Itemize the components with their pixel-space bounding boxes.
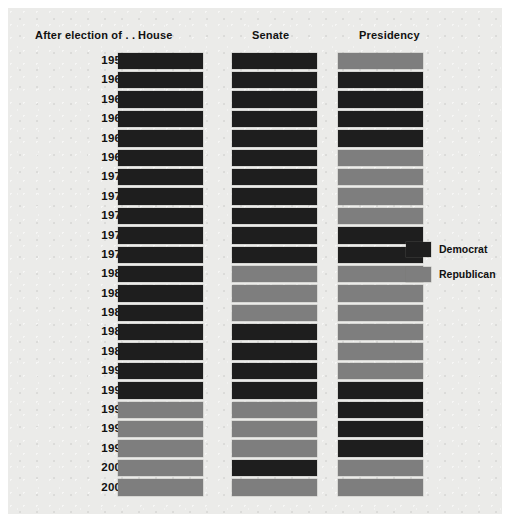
cell-senate-1964 xyxy=(232,111,317,127)
cell-senate-1958 xyxy=(232,53,317,69)
cell-house-1998 xyxy=(118,440,203,456)
cell-pres-1960 xyxy=(338,72,423,88)
cell-senate-1966 xyxy=(232,130,317,146)
cell-house-1974 xyxy=(118,208,203,224)
year-label: 1998 xyxy=(8,442,128,454)
chart-row: 1972 xyxy=(8,188,502,207)
cell-house-1958 xyxy=(118,53,203,69)
year-label: 1986 xyxy=(8,325,128,337)
chart-row: 1992 xyxy=(8,382,502,401)
cell-senate-1988 xyxy=(232,343,317,359)
cell-house-1990 xyxy=(118,363,203,379)
cell-house-1962 xyxy=(118,91,203,107)
cell-house-1964 xyxy=(118,111,203,127)
cell-senate-1978 xyxy=(232,247,317,263)
cell-senate-1992 xyxy=(232,382,317,398)
cell-house-1968 xyxy=(118,150,203,166)
cell-house-1972 xyxy=(118,188,203,204)
legend-item-rep: Republican xyxy=(406,267,501,292)
year-label: 1962 xyxy=(8,93,128,105)
chart-row: 1996 xyxy=(8,420,502,439)
year-label: 1964 xyxy=(8,112,128,124)
year-label: 1972 xyxy=(8,190,128,202)
chart-row: 1974 xyxy=(8,207,502,226)
year-label: 1994 xyxy=(8,403,128,415)
cell-house-1976 xyxy=(118,227,203,243)
cell-senate-1998 xyxy=(232,440,317,456)
cell-pres-1972 xyxy=(338,188,423,204)
chart-row: 1970 xyxy=(8,168,502,187)
cell-house-1960 xyxy=(118,72,203,88)
year-label: 1990 xyxy=(8,364,128,376)
cell-pres-1958 xyxy=(338,53,423,69)
cell-pres-1962 xyxy=(338,91,423,107)
year-label: 1966 xyxy=(8,132,128,144)
cell-house-2000 xyxy=(118,460,203,476)
cell-house-1994 xyxy=(118,402,203,418)
column-header-row: After election of . . . House Senate Pre… xyxy=(8,28,502,48)
legend: DemocratRepublican xyxy=(406,242,501,292)
cell-house-1984 xyxy=(118,305,203,321)
year-label: 1992 xyxy=(8,384,128,396)
cell-pres-1966 xyxy=(338,130,423,146)
cell-pres-1974 xyxy=(338,208,423,224)
cell-pres-1988 xyxy=(338,343,423,359)
chart-row: 1958 xyxy=(8,52,502,71)
chart-row: 1998 xyxy=(8,440,502,459)
legend-item-dem: Democrat xyxy=(406,242,501,267)
cell-senate-1986 xyxy=(232,324,317,340)
cell-pres-1964 xyxy=(338,111,423,127)
cell-senate-1960 xyxy=(232,72,317,88)
year-label: 1982 xyxy=(8,287,128,299)
cell-pres-1996 xyxy=(338,421,423,437)
chart-row: 2002 xyxy=(8,479,502,498)
year-label: 1958 xyxy=(8,54,128,66)
cell-house-1988 xyxy=(118,343,203,359)
year-label: 1976 xyxy=(8,229,128,241)
legend-label-dem: Democrat xyxy=(439,243,487,255)
cell-pres-1970 xyxy=(338,169,423,185)
chart-row: 1986 xyxy=(8,323,502,342)
chart-row: 2000 xyxy=(8,459,502,478)
cell-pres-1968 xyxy=(338,150,423,166)
year-label: 1980 xyxy=(8,267,128,279)
cell-house-1982 xyxy=(118,285,203,301)
chart-row: 1964 xyxy=(8,110,502,129)
year-label: 2000 xyxy=(8,461,128,473)
cell-senate-1994 xyxy=(232,402,317,418)
year-label: 1988 xyxy=(8,345,128,357)
cell-senate-1984 xyxy=(232,305,317,321)
cell-pres-1984 xyxy=(338,305,423,321)
cell-senate-1962 xyxy=(232,91,317,107)
cell-house-1970 xyxy=(118,169,203,185)
cell-pres-2002 xyxy=(338,479,423,495)
chart-row: 1984 xyxy=(8,304,502,323)
cell-pres-1992 xyxy=(338,382,423,398)
cell-house-1978 xyxy=(118,247,203,263)
legend-label-rep: Republican xyxy=(439,268,496,280)
chart-row: 1960 xyxy=(8,71,502,90)
year-label: 1996 xyxy=(8,422,128,434)
cell-senate-1982 xyxy=(232,285,317,301)
chart-row: 1962 xyxy=(8,91,502,110)
cell-house-1966 xyxy=(118,130,203,146)
cell-senate-1968 xyxy=(232,150,317,166)
cell-senate-1972 xyxy=(232,188,317,204)
cell-senate-1996 xyxy=(232,421,317,437)
cell-pres-1986 xyxy=(338,324,423,340)
cell-pres-1994 xyxy=(338,402,423,418)
chart-row: 1966 xyxy=(8,130,502,149)
years-column-header: After election of . . . xyxy=(35,29,142,41)
year-label: 2002 xyxy=(8,481,128,493)
column-header-senate: Senate xyxy=(252,29,289,41)
year-label: 1974 xyxy=(8,209,128,221)
cell-house-1992 xyxy=(118,382,203,398)
cell-house-2002 xyxy=(118,479,203,495)
cell-house-1986 xyxy=(118,324,203,340)
cell-senate-1970 xyxy=(232,169,317,185)
year-label: 1968 xyxy=(8,151,128,163)
cell-senate-2000 xyxy=(232,460,317,476)
legend-swatch-rep xyxy=(406,267,431,282)
cell-pres-1990 xyxy=(338,363,423,379)
cell-house-1980 xyxy=(118,266,203,282)
